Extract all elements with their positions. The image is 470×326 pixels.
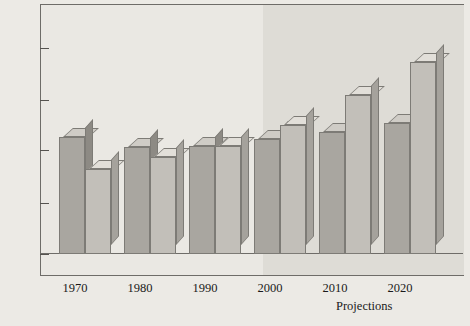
bar-front-face [215, 146, 241, 254]
bar-2000-50-and-older [280, 125, 306, 254]
bar-1990-50-and-older [215, 146, 241, 254]
plot-area [40, 4, 464, 276]
bar-front-face [319, 132, 345, 254]
bar-front-face [85, 169, 111, 254]
bar-front-face [59, 137, 85, 254]
y-tick-90 [40, 100, 49, 101]
y-tick-60 [40, 150, 49, 151]
bar-2020-under-age-18 [384, 123, 410, 254]
bar-1980-under-age-18 [124, 147, 150, 254]
y-tick-0 [40, 254, 49, 255]
bar-front-face [150, 157, 176, 254]
bar-side-face [111, 151, 119, 245]
bar-side-face [436, 44, 444, 245]
bar-1980-50-and-older [150, 157, 176, 254]
bar-top-face [128, 138, 164, 147]
y-tick-120 [40, 48, 49, 49]
bar-top-face [63, 128, 99, 137]
y-tick-30 [40, 203, 49, 204]
bar-front-face [280, 125, 306, 254]
bar-2020-50-and-older [410, 62, 436, 254]
bar-1970-under-age-18 [59, 137, 85, 254]
bar-front-face [384, 123, 410, 254]
bar-front-face [124, 147, 150, 254]
bar-2010-50-and-older [345, 95, 371, 254]
bar-2010-under-age-18 [319, 132, 345, 254]
bar-front-face [254, 139, 280, 254]
bar-front-face [189, 146, 215, 254]
bar-top-face [154, 148, 190, 157]
x-tick-label-2020: 2020 [360, 281, 440, 296]
bar-front-face [410, 62, 436, 254]
bar-front-face [345, 95, 371, 254]
bar-side-face [306, 107, 314, 245]
bar-1990-under-age-18 [189, 146, 215, 254]
bar-top-face [89, 160, 125, 169]
bar-2000-under-age-18 [254, 139, 280, 254]
bar-side-face [176, 139, 184, 245]
bar-1970-50-and-older [85, 169, 111, 254]
bar-side-face [241, 128, 249, 245]
bar-side-face [371, 77, 379, 245]
chart-figure: Under age 18 50 and older A Changing Tid… [0, 0, 470, 326]
x-axis-projections-note: Projections [336, 299, 392, 314]
